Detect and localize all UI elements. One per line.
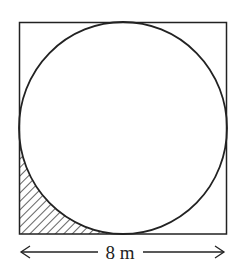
dimension-label: 8 m [105,242,134,263]
shaded-region [19,128,123,234]
diagram-canvas: 8 m [0,0,238,269]
square [20,23,227,235]
inscribed-circle [19,22,227,234]
